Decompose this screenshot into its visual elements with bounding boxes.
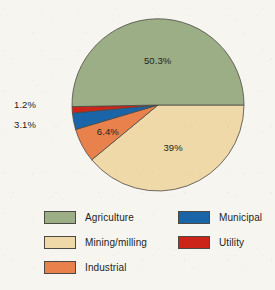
legend-label-municipal: Municipal [219,212,262,223]
pie-slice-group [72,19,244,191]
legend-item-utility: Utility [178,231,262,254]
legend-column-right: Municipal Utility [178,206,262,256]
legend-item-industrial: Industrial [44,256,147,279]
legend-swatch-industrial [44,261,76,274]
pie-chart-figure: 39%6.4%50.3% 1.2% 3.1% Agriculture Minin… [0,0,275,290]
legend-swatch-mining-milling [44,236,76,249]
slice-value-mining-milling: 39% [163,142,183,153]
legend-swatch-agriculture [44,211,76,224]
chart-legend: Agriculture Mining/milling Industrial Mu… [0,206,275,290]
legend-item-mining-milling: Mining/milling [44,231,147,254]
pie-chart-graphic: 39%6.4%50.3% [0,0,275,206]
legend-swatch-municipal [178,211,210,224]
slice-value-agriculture: 50.3% [144,55,172,66]
legend-swatch-utility [178,236,210,249]
legend-label-utility: Utility [219,237,244,248]
legend-item-agriculture: Agriculture [44,206,147,229]
legend-item-municipal: Municipal [178,206,262,229]
slice-callout-utility: 1.2% [14,99,36,110]
legend-label-mining-milling: Mining/milling [85,237,147,248]
slice-value-industrial: 6.4% [97,126,120,137]
legend-label-agriculture: Agriculture [85,212,134,223]
legend-column-left: Agriculture Mining/milling Industrial [44,206,147,281]
slice-callout-municipal: 3.1% [14,119,36,130]
legend-label-industrial: Industrial [85,262,127,273]
